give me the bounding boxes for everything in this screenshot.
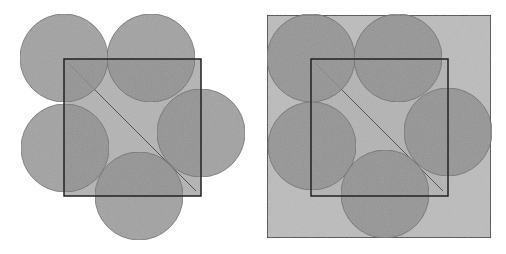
circle-top-right bbox=[107, 14, 195, 102]
left-figure bbox=[20, 14, 245, 240]
right-figure bbox=[267, 14, 492, 238]
circle-left bbox=[21, 104, 109, 192]
circle-left bbox=[268, 102, 356, 190]
circle-bottom bbox=[341, 150, 429, 238]
circle-top-right bbox=[354, 14, 442, 102]
diagram-canvas bbox=[0, 0, 506, 254]
